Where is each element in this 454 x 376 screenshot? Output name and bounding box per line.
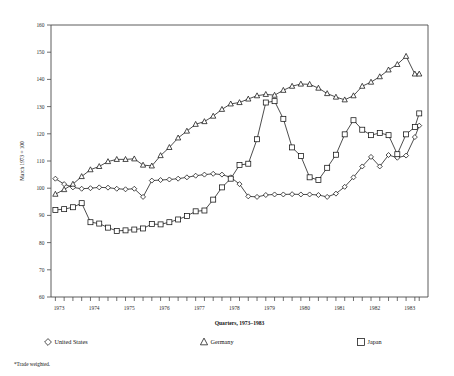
footnote-text: *Trade weighted. [14,361,50,367]
data-point [70,205,75,210]
data-point [211,197,216,202]
data-point [246,161,251,166]
x-tick-label: 1977 [194,305,205,311]
data-point [123,228,128,233]
data-point [53,176,58,181]
data-point [404,132,409,137]
data-point [105,225,110,230]
data-point [202,172,207,177]
data-point [307,192,312,197]
y-tick-label: 110 [37,158,45,164]
data-point [114,228,119,233]
legend-item-united-states: United States [45,338,89,346]
data-point [255,194,260,199]
data-point [114,156,119,161]
data-point [386,133,391,138]
data-point [97,185,102,190]
series-markers [53,99,422,234]
x-tick-label: 1975 [124,305,135,311]
data-point [395,152,400,157]
data-point [325,194,330,199]
data-point [158,222,163,227]
data-point [377,74,382,79]
legend: United StatesGermanyJapan [45,338,382,346]
legend-marker-diamond-icon [45,339,52,346]
data-point [176,176,181,181]
data-point [281,87,286,92]
data-point [184,213,189,218]
data-point [369,133,374,138]
data-point [219,172,224,177]
data-point [219,185,224,190]
data-point [79,186,84,191]
data-point [263,100,268,105]
data-point [184,128,189,133]
data-point [386,67,391,72]
y-axis-title-text: March 1973 = 100 [19,141,25,181]
legend-item-germany: Germany [200,338,234,345]
data-point [325,165,330,170]
data-point [88,186,93,191]
data-point [211,113,216,118]
data-point [140,162,145,167]
x-axis-title-text: Quarters, 1973–1983 [215,320,265,326]
data-point [149,222,154,227]
x-tick-label: 1976 [159,305,170,311]
data-point [316,193,321,198]
data-point [333,152,338,157]
data-point [417,111,422,116]
legend-marker-triangle-icon [200,338,207,345]
y-tick-label: 120 [36,131,44,137]
y-tick-label: 60 [39,294,45,300]
data-point [62,187,67,192]
x-tick-label: 1974 [89,305,100,311]
series-japan [53,99,422,234]
series-germany [53,53,422,196]
data-point [368,79,373,84]
data-point [132,227,137,232]
data-point [263,193,268,198]
y-tick-label: 140 [36,76,44,82]
data-point [53,191,58,196]
data-point [281,116,286,121]
data-point [219,106,224,111]
data-point [246,194,251,199]
legend-label: Japan [368,338,382,345]
data-point [272,99,277,104]
data-point [342,132,347,137]
legend-label: Germany [211,338,235,345]
data-point [307,175,312,180]
data-point [62,182,67,187]
x-tick-label: 1983 [404,305,415,311]
series-line [55,56,419,194]
series-markers [53,53,422,196]
data-point [79,201,84,206]
data-point [290,192,295,197]
data-point [53,207,58,212]
y-axis-ticks: 60708090100110120130140150160 [36,22,51,300]
data-point [97,164,102,169]
data-point [360,83,365,88]
x-tick-label: 1981 [334,305,345,311]
data-point [167,177,172,182]
data-point [176,135,181,140]
data-point [417,71,422,76]
exchange-rate-index-chart: 60708090100110120130140150160March 1973 … [0,0,454,376]
data-point [228,176,233,181]
data-point [105,185,110,190]
y-tick-label: 70 [39,267,45,273]
x-tick-label: 1973 [54,305,65,311]
data-point [316,178,321,183]
y-tick-label: 90 [39,212,45,218]
data-point [176,217,181,222]
data-point [360,127,365,132]
data-point [403,53,408,58]
y-axis-title: March 1973 = 100 [19,141,25,181]
data-point [202,119,207,124]
data-point [202,208,207,213]
data-point [412,135,417,140]
data-point [167,220,172,225]
x-axis-ticks: 1973197419751976197719781979198019811982… [54,297,420,311]
x-tick-label: 1978 [229,305,240,311]
data-point [281,192,286,197]
